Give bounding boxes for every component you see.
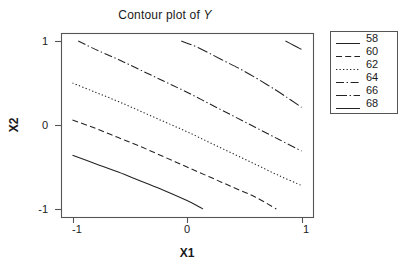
legend-item-60[interactable]: 60 <box>331 45 397 58</box>
legend-line-sample-icon <box>335 86 361 96</box>
legend-line-sample-icon <box>335 34 361 44</box>
legend-line-sample-icon <box>335 60 361 70</box>
legend-item-label: 62 <box>366 59 378 70</box>
contour-line-58 <box>73 155 204 209</box>
plot-frame <box>62 34 314 218</box>
legend-line-sample-icon <box>335 47 361 57</box>
legend-item-66[interactable]: 66 <box>331 84 397 97</box>
contour-line-66 <box>181 41 301 107</box>
legend-line-sample-icon <box>335 99 361 109</box>
legend-item-62[interactable]: 62 <box>331 58 397 71</box>
y-axis-title: X2 <box>7 95 21 155</box>
contour-line-68 <box>285 41 301 49</box>
legend-item-label: 66 <box>366 85 378 96</box>
legend-item-68[interactable]: 68 <box>331 97 397 110</box>
x-axis-title: X1 <box>61 246 313 260</box>
legend: 586062646668 <box>330 31 398 114</box>
x-tick-label-0: 0 <box>172 223 202 235</box>
x-tick-label-neg1: -1 <box>62 223 92 235</box>
legend-item-label: 58 <box>366 33 378 44</box>
contour-line-60 <box>73 120 277 209</box>
legend-item-label: 64 <box>366 72 378 83</box>
legend-item-64[interactable]: 64 <box>331 71 397 84</box>
legend-item-label: 60 <box>366 46 378 57</box>
y-tick-label-0: 0 <box>22 119 48 131</box>
contour-plot-figure: Contour plot of Y -1 0 1 1 0 -1 X1 X2 58… <box>0 0 402 272</box>
legend-item-58[interactable]: 58 <box>331 32 397 45</box>
legend-item-label: 68 <box>366 98 378 109</box>
legend-line-sample-icon <box>335 73 361 83</box>
x-tick-label-1: 1 <box>291 223 321 235</box>
contour-line-62 <box>73 83 302 185</box>
y-tick-label-1: 1 <box>22 35 48 47</box>
y-tick-label-neg1: -1 <box>22 203 48 215</box>
